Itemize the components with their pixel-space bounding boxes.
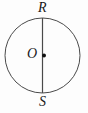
circle-diagram: R O S <box>0 0 88 113</box>
center-dot <box>42 54 46 58</box>
point-label-r: R <box>38 1 47 15</box>
point-label-s: S <box>39 95 46 109</box>
point-label-o: O <box>27 47 37 61</box>
